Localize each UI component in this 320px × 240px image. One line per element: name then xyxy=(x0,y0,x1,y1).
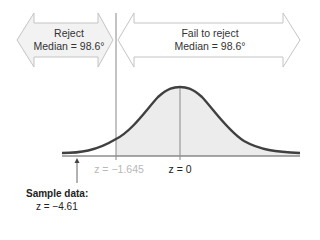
sample-value: z = −4.61 xyxy=(26,200,106,213)
fail-region-shading xyxy=(116,87,300,156)
fail-median: Median = 98.6° xyxy=(140,40,280,53)
center-label: z = 0 xyxy=(160,163,200,176)
sample-arrow-head xyxy=(75,158,80,163)
critical-value-label: z = −1.645 xyxy=(84,163,154,176)
reject-title: Reject xyxy=(30,27,108,40)
sample-data-block: Sample data: z = −4.61 xyxy=(26,187,106,213)
sample-title: Sample data: xyxy=(26,187,106,200)
reject-median: Median = 98.6° xyxy=(30,40,108,53)
reject-label: Reject Median = 98.6° xyxy=(30,27,108,53)
fail-title: Fail to reject xyxy=(140,27,280,40)
fail-to-reject-label: Fail to reject Median = 98.6° xyxy=(140,27,280,53)
